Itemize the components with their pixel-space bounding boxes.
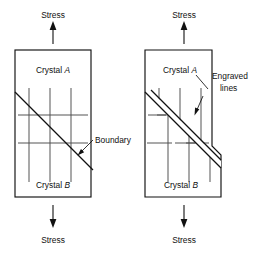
stress-arrow-bottom-left [50, 205, 57, 228]
engraved-lines-callout-label-line2: lines [220, 83, 237, 93]
stress-arrow-bottom-right [181, 205, 188, 228]
stress-label-bottom-left: Stress [41, 235, 65, 245]
panel-right: Stress Crystal A Crystal B Engraved line… [145, 10, 248, 245]
engraved-lines-callout-label-line1: Engraved [212, 71, 248, 81]
engraved-grid-left [18, 88, 88, 182]
stress-arrow-top-right [181, 21, 188, 44]
crystal-b-label-right: Crystal B [164, 180, 198, 190]
stress-arrow-top-left [50, 21, 57, 44]
grain-boundary-left [15, 92, 93, 170]
crystal-b-label-left: Crystal B [36, 180, 70, 190]
stress-label-top-right: Stress [172, 10, 196, 20]
boundary-callout-label: Boundary [95, 135, 132, 145]
stress-label-top-left: Stress [41, 10, 65, 20]
panel-left: Stress Crystal A Crystal B Boundary Stre… [15, 10, 132, 245]
crystal-a-label-left: Crystal A [36, 65, 70, 75]
crystal-a-label-right: Crystal A [163, 65, 197, 75]
stress-label-bottom-right: Stress [172, 235, 196, 245]
grain-boundary-sliding-figure: Stress Crystal A Crystal B Boundary Stre… [0, 0, 261, 258]
figure-canvas: Stress Crystal A Crystal B Boundary Stre… [0, 0, 261, 258]
grain-boundary-band-right [145, 90, 221, 168]
